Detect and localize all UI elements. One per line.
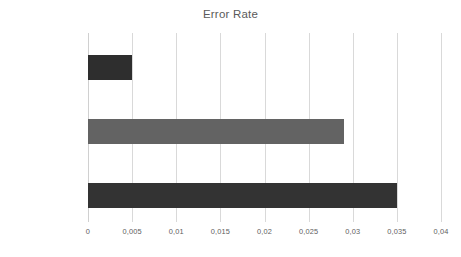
x-axis-tick-label: 0,04 [411,228,461,235]
bar [88,119,344,144]
gridline [441,33,442,222]
bar [88,55,132,80]
gridline [397,33,398,222]
chart-container: Error Rate Human + AI AI Human Pathologi… [0,0,461,257]
bar [88,183,397,208]
plot-area [88,33,441,222]
chart-title: Error Rate [0,8,461,20]
